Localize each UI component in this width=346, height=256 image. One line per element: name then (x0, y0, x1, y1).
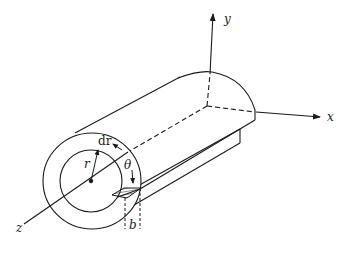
z-axis-hidden (128, 106, 207, 152)
x-axis (256, 112, 320, 117)
cylinder-diagram: y x z r dr θ b (0, 0, 346, 256)
x-label: x (327, 110, 334, 124)
dr-label: dr (98, 134, 112, 148)
z-label: z (15, 221, 23, 235)
y-axis-hidden (207, 74, 210, 106)
y-label: y (223, 12, 231, 26)
back-arc (178, 72, 255, 120)
b-label: b (129, 218, 137, 232)
theta-label: θ (124, 158, 132, 172)
y-axis (210, 14, 213, 74)
x-axis-hidden (207, 106, 255, 112)
top-edge (75, 77, 180, 133)
